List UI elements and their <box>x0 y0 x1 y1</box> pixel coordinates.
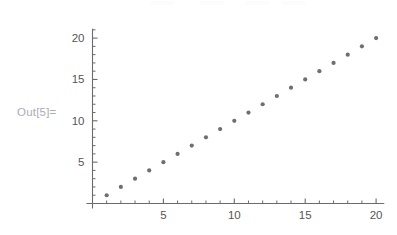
y-tick-label: 20 <box>72 32 85 44</box>
y-tick-label: 15 <box>72 73 85 85</box>
notebook-output-cell: Out[5]= 5101520 5101520 <box>0 0 397 235</box>
data-point <box>374 36 378 40</box>
data-point <box>303 77 307 81</box>
data-point <box>204 135 208 139</box>
y-tick-label: 10 <box>72 115 85 127</box>
data-point <box>175 152 179 156</box>
data-point <box>190 144 194 148</box>
data-point <box>133 177 137 181</box>
x-tick-label: 20 <box>370 209 383 221</box>
clipped-header-remnant <box>150 1 306 5</box>
x-axis-tick-labels: 5101520 <box>160 209 382 221</box>
data-point <box>161 160 165 164</box>
scatter-plot[interactable]: 5101520 5101520 <box>0 0 397 235</box>
data-point <box>317 69 321 73</box>
x-axis-ticks <box>107 199 376 204</box>
data-point <box>232 119 236 123</box>
plot-canvas: 5101520 5101520 <box>0 0 397 235</box>
clipped-text-remnant <box>245 1 269 5</box>
data-point <box>261 102 265 106</box>
data-point <box>119 185 123 189</box>
axes <box>87 29 385 209</box>
data-point <box>218 127 222 131</box>
data-point <box>289 86 293 90</box>
data-point <box>275 94 279 98</box>
clipped-text-remnant <box>282 1 306 5</box>
data-point <box>246 110 250 114</box>
y-tick-label: 5 <box>78 156 84 168</box>
data-points <box>105 36 379 197</box>
x-tick-label: 5 <box>160 209 166 221</box>
data-point <box>346 53 350 57</box>
x-tick-label: 10 <box>228 209 241 221</box>
data-point <box>147 168 151 172</box>
x-tick-label: 15 <box>299 209 312 221</box>
data-point <box>105 193 109 197</box>
clipped-text-remnant <box>150 1 174 5</box>
data-point <box>331 61 335 65</box>
clipped-text-remnant <box>200 1 224 5</box>
y-axis-tick-labels: 5101520 <box>72 32 85 168</box>
data-point <box>360 44 364 48</box>
y-axis-ticks <box>93 30 98 195</box>
